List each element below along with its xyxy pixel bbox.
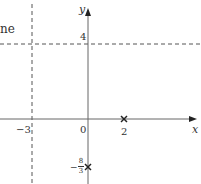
y-intercept-numerator: 8: [78, 158, 84, 165]
y-intercept-denominator: 3: [78, 168, 84, 175]
graph-canvas: [0, 0, 201, 184]
x-axis-label: x: [192, 124, 198, 135]
y-axis-label: y: [79, 4, 85, 15]
vertical-asymptote-label: −3: [16, 125, 31, 135]
origin-label: 0: [80, 125, 86, 135]
x-intercept-label: 2: [121, 127, 127, 137]
y-intercept-sign: −: [70, 163, 78, 172]
horizontal-asymptote-label: 4: [80, 32, 86, 42]
cut-off-text: ne: [0, 23, 15, 35]
y-axis-arrow: [85, 8, 91, 16]
x-axis-arrow: [189, 116, 197, 122]
